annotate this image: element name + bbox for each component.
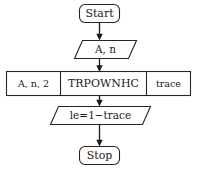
input-label: A, n (94, 43, 116, 55)
stop-label: Stop (87, 149, 113, 162)
process-output-label: trace (156, 78, 181, 89)
node-stop: Stop (80, 147, 120, 165)
connector-process-to-output (96, 96, 102, 107)
process-name-label: TRPOWNHC (68, 77, 139, 90)
arrowhead-icon (96, 100, 102, 107)
output-label: le=1−trace (70, 109, 131, 121)
connector-start-to-input (96, 23, 102, 41)
process-input-label: A, n, 2 (17, 78, 49, 89)
node-output: le=1−trace (51, 107, 151, 125)
node-process: A, n, 2 TRPOWNHC trace (7, 72, 191, 96)
connector-input-to-process (96, 59, 102, 73)
node-start: Start (80, 5, 120, 23)
node-input: A, n (75, 41, 137, 59)
arrowhead-icon (96, 140, 102, 147)
connector-output-to-stop (96, 125, 102, 147)
flowchart-svg: Start A, n A, n, 2 TRPOWNHC trace (0, 0, 197, 173)
start-label: Start (85, 7, 114, 20)
arrowhead-icon (96, 34, 102, 41)
flowchart-diagram: Start A, n A, n, 2 TRPOWNHC trace (0, 0, 197, 173)
